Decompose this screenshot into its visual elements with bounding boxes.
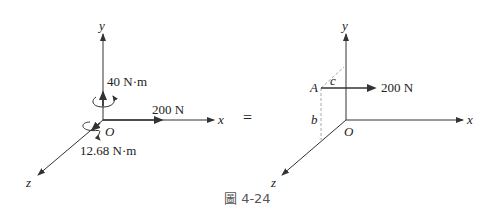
moment-z-label: 12.68 N·m — [80, 143, 136, 158]
figure-caption: 圖 4-24 — [224, 191, 271, 206]
left-y-axis-label: y — [97, 18, 105, 33]
right-origin-label: O — [344, 124, 354, 139]
moment-y-label: 40 N·m — [107, 74, 147, 89]
right-z-axis — [282, 120, 346, 175]
left-moment-z-vector — [92, 123, 100, 130]
right-force-label: 200 N — [381, 80, 414, 95]
dim-c-label: c — [330, 73, 336, 88]
left-origin-label: O — [105, 124, 115, 139]
right-z-axis-label: z — [270, 175, 276, 190]
left-diagram: y x z O 200 N 40 N·m 12.68 N·m — [25, 18, 224, 190]
equals-sign: = — [243, 109, 252, 126]
left-z-axis-label: z — [25, 175, 31, 190]
left-x-axis-label: x — [217, 112, 224, 127]
left-force-label: 200 N — [152, 102, 185, 117]
diagram-svg: y x z O 200 N 40 N·m 12.68 N·m = y x z O… — [0, 0, 490, 221]
figure-4-24: y x z O 200 N 40 N·m 12.68 N·m = y x z O… — [0, 0, 490, 221]
dim-b-label: b — [311, 112, 318, 127]
right-y-axis-label: y — [340, 18, 348, 33]
right-diagram: y x z O A c b 200 N — [270, 18, 473, 190]
point-a-label: A — [309, 80, 318, 95]
right-x-axis-label: x — [466, 112, 473, 127]
